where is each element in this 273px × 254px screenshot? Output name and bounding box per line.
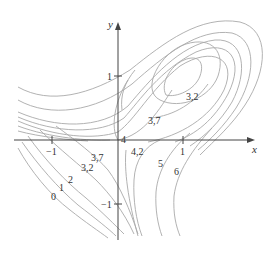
upper-contours: [18, 21, 262, 155]
contour-label-3-2-ellipse: 3,2: [186, 91, 199, 102]
y-axis-arrow-icon: [115, 22, 121, 30]
right-contours: [126, 128, 213, 236]
contour-4-c: [122, 70, 135, 110]
contour-3-7-tail: [150, 84, 208, 118]
x-tick-label-neg1: −1: [46, 146, 57, 157]
contour-label-1: 1: [59, 182, 64, 193]
lower-left-contours: [18, 126, 138, 238]
contour-4-b: [114, 80, 128, 140]
contour-label-6: 6: [174, 166, 179, 177]
contour-plot: y x −1 1 1 −1 3,2 3,7 4 4,2 5 6 3,7 3,2 …: [0, 0, 273, 254]
contour-4-2-b: [126, 150, 139, 236]
y-tick-label-neg1: −1: [101, 199, 112, 210]
x-axis-label: x: [251, 143, 257, 155]
y-tick-label-1: 1: [107, 71, 112, 82]
contour-label-5: 5: [158, 158, 163, 169]
contour-label-4: 4: [121, 134, 126, 145]
contour-upper-6: [18, 126, 110, 140]
contour-3-2-inner: [164, 58, 201, 96]
x-tick-label-1: 1: [180, 146, 185, 157]
contour-label-2: 2: [68, 174, 73, 185]
contour-2: [28, 136, 124, 234]
contour-label-4-2: 4,2: [131, 146, 144, 157]
contour-label-3-7-ellipse: 3,7: [148, 115, 161, 126]
contour-label-0: 0: [51, 191, 56, 202]
y-axis-label: y: [107, 18, 113, 30]
contour-label-3-2-lower: 3,2: [81, 162, 94, 173]
